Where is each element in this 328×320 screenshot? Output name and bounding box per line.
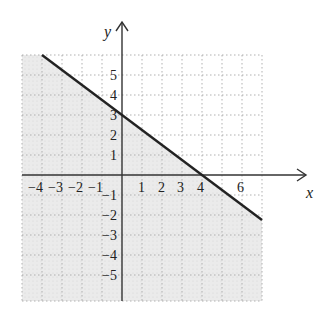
svg-text:2: 2 <box>158 180 165 195</box>
svg-text:−2: −2 <box>68 180 83 195</box>
graph: y x −4 −3 −2 −1 1 2 3 4 6 5 4 3 2 1 −1 −… <box>0 0 328 320</box>
svg-text:−2: −2 <box>102 208 117 223</box>
svg-text:−3: −3 <box>102 228 117 243</box>
y-axis-label: y <box>102 23 112 41</box>
svg-text:1: 1 <box>138 180 145 195</box>
svg-text:4: 4 <box>110 88 117 103</box>
svg-text:−4: −4 <box>28 180 43 195</box>
svg-text:3: 3 <box>177 180 184 195</box>
svg-text:3: 3 <box>110 108 117 123</box>
svg-text:−4: −4 <box>102 248 117 263</box>
x-axis-label: x <box>305 184 313 201</box>
svg-text:−5: −5 <box>102 268 117 283</box>
svg-text:6: 6 <box>237 180 244 195</box>
svg-text:2: 2 <box>110 128 117 143</box>
svg-text:1: 1 <box>110 148 117 163</box>
svg-text:−3: −3 <box>48 180 63 195</box>
svg-text:5: 5 <box>110 68 117 83</box>
svg-text:−1: −1 <box>88 180 103 195</box>
svg-text:−1: −1 <box>102 188 117 203</box>
svg-text:4: 4 <box>197 180 204 195</box>
